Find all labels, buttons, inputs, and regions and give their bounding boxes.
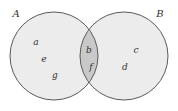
- element-b: b: [86, 46, 92, 55]
- element-d: d: [122, 63, 128, 72]
- element-c: c: [133, 46, 138, 55]
- set-label-b: B: [156, 9, 163, 19]
- set-label-a: A: [12, 9, 19, 19]
- element-f: f: [89, 63, 92, 72]
- element-g: g: [52, 71, 58, 80]
- element-e: e: [41, 55, 46, 64]
- venn-svg: [0, 0, 178, 111]
- venn-diagram: A B a e g b f c d: [0, 0, 178, 111]
- element-a: a: [33, 38, 38, 47]
